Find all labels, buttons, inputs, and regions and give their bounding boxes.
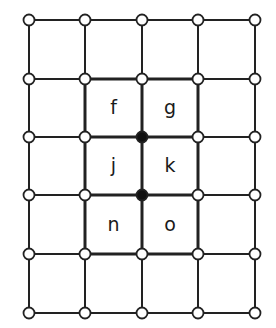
open-node bbox=[193, 15, 204, 26]
open-node bbox=[24, 190, 35, 201]
open-node bbox=[24, 132, 35, 143]
cell-label-o: o bbox=[164, 213, 176, 235]
cell-label-g: g bbox=[164, 96, 176, 118]
cell-label-f: f bbox=[110, 96, 118, 118]
open-node bbox=[137, 15, 148, 26]
grid-diagram: fgjkno bbox=[0, 0, 276, 328]
open-node bbox=[137, 249, 148, 260]
open-node bbox=[250, 249, 261, 260]
open-node bbox=[193, 74, 204, 85]
open-node bbox=[80, 249, 91, 260]
open-node bbox=[80, 132, 91, 143]
open-node bbox=[250, 15, 261, 26]
open-node bbox=[193, 132, 204, 143]
open-node bbox=[80, 190, 91, 201]
cell-label-k: k bbox=[164, 154, 175, 176]
filled-node bbox=[137, 190, 148, 201]
open-node bbox=[80, 308, 91, 319]
open-node bbox=[250, 308, 261, 319]
open-node bbox=[250, 132, 261, 143]
open-node bbox=[80, 15, 91, 26]
open-node bbox=[193, 308, 204, 319]
open-node bbox=[250, 190, 261, 201]
open-node bbox=[193, 190, 204, 201]
open-node bbox=[24, 249, 35, 260]
open-node bbox=[137, 74, 148, 85]
filled-node bbox=[137, 132, 148, 143]
open-node bbox=[193, 249, 204, 260]
cell-label-j: j bbox=[110, 154, 116, 176]
open-node bbox=[24, 15, 35, 26]
open-node bbox=[24, 308, 35, 319]
open-node bbox=[137, 308, 148, 319]
open-node bbox=[24, 74, 35, 85]
open-node bbox=[80, 74, 91, 85]
open-node bbox=[250, 74, 261, 85]
cell-label-n: n bbox=[107, 213, 119, 235]
